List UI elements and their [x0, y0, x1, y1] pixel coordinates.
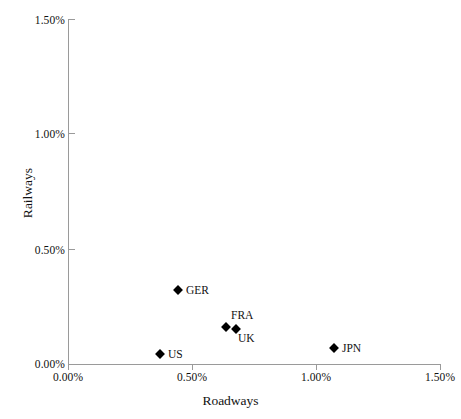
data-point-label-us: US — [168, 348, 183, 360]
y-tick-label-1.50: 1.50% — [35, 14, 65, 26]
y-tick-label-0.50: 0.50% — [35, 244, 65, 256]
data-point-marker-fra — [221, 322, 231, 332]
data-point-marker-us — [155, 349, 165, 359]
x-tick-mark-1.00 — [316, 365, 317, 370]
y-tick-label-0.00: 0.00% — [35, 358, 65, 370]
data-point-label-jpn: JPN — [342, 342, 361, 354]
scatter-chart: 1.50% 1.00% 0.50% 0.00% 0.00% 0.50% 1.00… — [0, 0, 461, 419]
y-axis-title: Railways — [20, 143, 36, 243]
x-tick-mark-1.50 — [440, 365, 441, 370]
x-tick-label-0.00: 0.00% — [38, 371, 98, 383]
x-axis-line — [68, 364, 441, 365]
x-tick-label-1.00: 1.00% — [286, 371, 346, 383]
data-point-label-ger: GER — [186, 284, 209, 296]
data-point-label-uk: UK — [238, 332, 255, 344]
x-tick-mark-0.50 — [192, 365, 193, 370]
y-tick-mark-0.00 — [69, 364, 75, 365]
y-tick-mark-1.50 — [69, 19, 75, 20]
data-point-marker-ger — [173, 285, 183, 295]
data-point-marker-jpn — [329, 343, 339, 353]
y-axis-line — [68, 19, 69, 365]
x-axis-title: Roadways — [0, 393, 461, 409]
y-tick-mark-1.00 — [69, 133, 75, 134]
x-tick-mark-0.00 — [68, 365, 69, 370]
data-point-label-fra: FRA — [231, 309, 253, 321]
y-tick-label-1.00: 1.00% — [35, 128, 65, 140]
x-tick-label-0.50: 0.50% — [162, 371, 222, 383]
y-tick-mark-0.50 — [69, 249, 75, 250]
x-tick-label-1.50: 1.50% — [410, 371, 461, 383]
